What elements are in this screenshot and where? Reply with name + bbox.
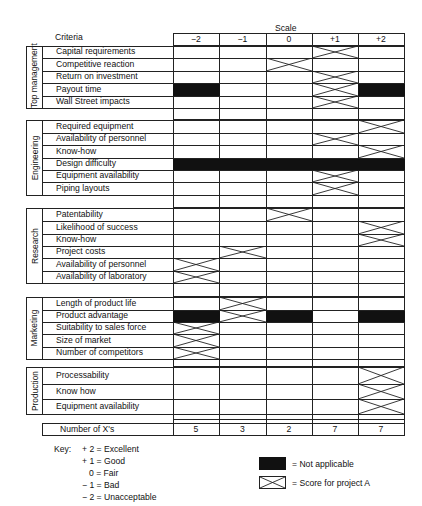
not-applicable-cell [312,159,359,170]
legend-not-applicable-label: = Not applicable [292,460,354,469]
total-count: 7 [358,425,404,434]
not-applicable-cell [173,159,220,170]
score-x-mark-icon [312,83,358,96]
criterion-label: Know-how [56,147,96,156]
not-applicable-cell [358,84,405,96]
criterion-label: Availability of laboratory [56,272,147,281]
scale-column-header: +2 [358,35,404,44]
section-label-top-management: Top management [29,46,39,108]
score-x-mark-icon [266,208,312,221]
legend-score-label: = Score for project A [292,479,370,488]
score-x-mark-icon [358,221,404,234]
scale-column-header: +1 [312,35,358,44]
criterion-label: Size of market [56,336,111,345]
criterion-label: Required equipment [56,122,133,131]
score-x-mark-icon [358,234,404,246]
score-x-mark-icon [358,367,404,384]
score-x-mark-icon [358,384,404,399]
criterion-label: Length of product life [56,299,136,308]
score-x-mark-icon [312,170,358,182]
grid-line [42,384,405,385]
score-x-mark-icon [312,96,358,108]
section-label-marketing: Marketing [29,297,39,359]
key-item: − 2 = Unacceptable [82,493,157,502]
score-x-mark-icon [358,120,404,133]
section-label-production: Production [29,367,39,414]
criterion-label: Wall Street impacts [56,97,130,106]
score-x-mark-icon [219,310,266,322]
score-x-mark-icon [358,399,404,414]
criterion-label: Availability of personnel [56,134,146,143]
not-applicable-cell [358,311,405,322]
score-x-mark-icon [173,334,219,347]
key-item: + 2 = Excellent [82,445,139,454]
scale-column-header: −2 [173,35,219,44]
score-x-mark-icon [312,46,358,58]
not-applicable-cell [219,159,267,170]
grid-line [42,234,405,235]
grid-line [42,283,405,284]
grid-line [42,108,405,109]
criterion-label: Product advantage [56,311,128,320]
grid-line [42,359,405,360]
criterion-label: Know how [56,387,96,396]
criterion-label: Design difficulty [56,159,116,168]
score-x-mark-icon [312,133,358,145]
score-x-mark-icon [173,347,219,359]
total-count: 5 [173,425,219,434]
criterion-label: Competitive reaction [56,60,134,69]
criterion-label: Suitability to sales force [56,323,146,332]
score-x-swatch-icon [259,476,286,489]
score-x-mark-icon [358,145,404,158]
criterion-label: Project costs [56,247,105,256]
key-item: + 1 = Good [82,457,125,466]
scale-title: Scale [275,24,297,33]
score-x-mark-icon [312,71,358,83]
key-item: 0 = Fair [89,469,118,478]
not-applicable-cell [173,84,220,96]
section-label-research: Research [29,208,39,283]
criteria-title: Criteria [55,33,83,42]
criterion-label: Payout time [56,85,101,94]
criterion-label: Return on investment [56,72,138,81]
score-x-mark-icon [312,182,358,195]
criterion-label: Piping layouts [56,184,110,193]
score-x-mark-icon [219,297,266,310]
total-count: 3 [219,425,266,434]
grid-line [42,414,405,415]
criterion-label: Equipment availability [56,171,139,180]
total-count: 2 [266,425,312,434]
criterion-label: Availability of personnel [56,260,146,269]
key-title: Key: [54,445,71,454]
score-x-mark-icon [266,58,312,71]
criterion-label: Equipment availability [56,402,139,411]
grid-line [42,367,405,368]
not-applicable-cell [266,159,313,170]
scale-column-header: −1 [219,35,266,44]
not-applicable-cell [358,159,405,170]
not-applicable-cell [266,311,313,322]
score-x-mark-icon [173,322,219,334]
score-x-mark-icon [173,271,219,283]
key-item: − 1 = Bad [82,481,119,490]
not-applicable-cell [173,311,220,322]
score-x-mark-icon [173,258,219,271]
not-applicable-swatch-icon [259,457,286,470]
total-count: 7 [312,425,358,434]
grid-line [42,399,405,400]
criterion-label: Patentability [56,210,103,219]
grid-line [173,419,405,420]
score-x-mark-icon [219,246,266,258]
criterion-label: Likelihood of success [56,223,138,232]
grid-line [42,195,405,196]
section-label-engineering: Engineering [29,120,39,195]
criterion-label: Processability [56,371,109,380]
scale-column-header: 0 [266,35,312,44]
criterion-label: Number of competitors [56,348,143,357]
grid-line [42,145,405,146]
totals-label: Number of X's [60,425,114,434]
criterion-label: Know-how [56,235,96,244]
criterion-label: Capital requirements [56,47,135,56]
